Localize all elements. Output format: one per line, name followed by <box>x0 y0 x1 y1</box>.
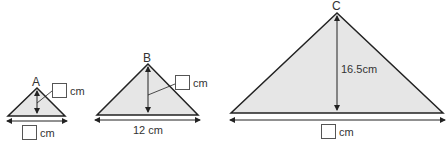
base-answer-box-a[interactable] <box>22 125 37 140</box>
height-unit-b: cm <box>193 78 208 89</box>
vertex-label-b: B <box>143 52 151 64</box>
vertex-label-c: C <box>332 0 341 12</box>
height-answer-box-b[interactable] <box>175 75 190 90</box>
height-unit-a: cm <box>70 86 85 97</box>
height-label-c: 16.5cm <box>341 64 377 75</box>
triangles-diagram <box>0 0 447 146</box>
base-unit-c: cm <box>339 127 354 138</box>
triangle-b <box>95 64 200 120</box>
base-label-b: 12 cm <box>133 125 163 136</box>
base-unit-a: cm <box>40 128 55 139</box>
triangle-c <box>230 13 445 120</box>
height-answer-box-a[interactable] <box>52 83 67 98</box>
vertex-label-a: A <box>32 76 40 88</box>
base-answer-box-c[interactable] <box>321 124 336 139</box>
